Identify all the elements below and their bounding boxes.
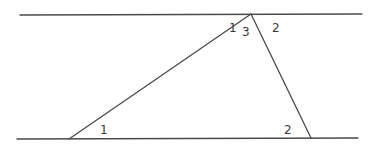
angle-label-bottom-left-1: 1: [100, 123, 108, 137]
angle-label-top-2: 2: [272, 21, 280, 35]
top-parallel-line: [20, 14, 362, 15]
angle-label-top-3: 3: [242, 25, 250, 39]
angle-label-top-1: 1: [229, 21, 237, 35]
angle-label-bottom-right-2: 2: [284, 123, 292, 137]
triangle-right-side: [251, 14, 311, 138]
triangle-left-side: [69, 14, 251, 139]
parallel-lines-triangle-diagram: 1 3 2 1 2: [0, 0, 375, 150]
bottom-parallel-line: [17, 138, 358, 139]
